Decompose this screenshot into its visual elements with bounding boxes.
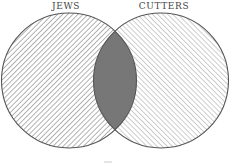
venn-canvas	[0, 0, 230, 166]
set-label-cutters: CUTTERS	[139, 1, 189, 11]
set-label-jews: JEWS	[52, 1, 80, 11]
venn-diagram: JEWS CUTTERS	[0, 0, 230, 166]
